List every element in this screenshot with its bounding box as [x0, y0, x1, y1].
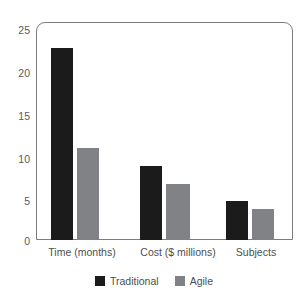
agile-swatch-icon — [175, 276, 185, 286]
y-axis-tick-label: 0 — [4, 236, 30, 247]
y-axis-tick-label: 10 — [4, 154, 30, 165]
bar-traditional-time — [51, 48, 73, 240]
bar-traditional-cost — [140, 166, 162, 240]
y-axis-tick-label: 20 — [4, 68, 30, 79]
traditional-swatch-icon — [95, 276, 105, 286]
legend-item-traditional: Traditional — [95, 276, 159, 287]
legend-label-traditional: Traditional — [110, 276, 159, 287]
x-axis-category-label-subjects: Subjects — [216, 247, 296, 258]
plot-area — [36, 22, 293, 240]
bar-agile-subjects — [252, 209, 274, 240]
y-axis-tick-label: 5 — [4, 196, 30, 207]
bar-traditional-subjects — [226, 201, 248, 240]
legend-item-agile: Agile — [175, 276, 213, 287]
bar-agile-cost — [166, 184, 190, 240]
chart-legend: Traditional Agile — [0, 276, 308, 287]
bar-chart: 25 20 15 10 5 0 Time (months) Cost ($ mi… — [0, 0, 308, 303]
y-axis-tick-label: 25 — [4, 25, 30, 36]
x-axis-category-label-time: Time (months) — [32, 247, 132, 258]
bar-agile-time — [77, 148, 99, 240]
y-axis-tick-label: 15 — [4, 111, 30, 122]
legend-label-agile: Agile — [190, 276, 213, 287]
